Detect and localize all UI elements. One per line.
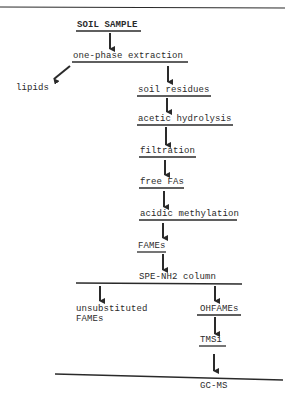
node-soil-sample: SOIL SAMPLE	[77, 20, 138, 30]
gcms-line	[55, 374, 283, 380]
node-ohfames: OHFAMEs	[200, 304, 239, 314]
connector-layer	[0, 0, 291, 410]
node-lipids: lipids	[16, 83, 49, 93]
node-spe-column: SPE-NH2 column	[139, 272, 216, 282]
spe-column-line	[76, 283, 242, 284]
node-acetic-hydrolysis: acetic hydrolysis	[138, 114, 232, 124]
node-unsubstituted-line1: unsubstituted	[76, 304, 148, 314]
node-acidic-methylation: acidic methylation	[140, 209, 239, 219]
arrow-extraction-to-lipids	[54, 66, 70, 79]
node-gcms: GC-MS	[200, 381, 228, 391]
node-filtration: filtration	[140, 146, 195, 156]
node-one-phase-extraction: one-phase extraction	[73, 51, 183, 61]
node-free-fas: free FAs	[140, 177, 184, 187]
flowchart-canvas: SOIL SAMPLE one-phase extraction lipids …	[0, 0, 291, 410]
node-soil-residues: soil residues	[138, 85, 210, 95]
node-tmsi: TMSi	[200, 335, 222, 345]
top-rule	[0, 7, 285, 8]
node-fames: FAMEs	[138, 241, 166, 251]
node-unsubstituted-line2: FAMEs	[76, 314, 104, 324]
